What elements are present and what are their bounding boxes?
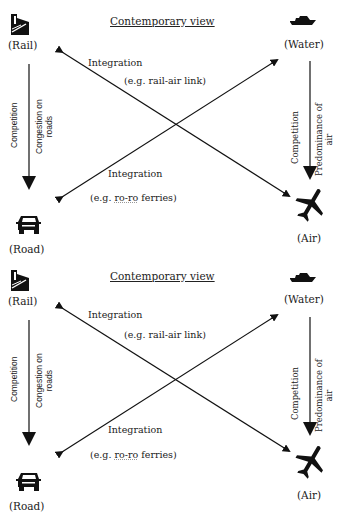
edge-label-rail-air: Integration (88, 58, 142, 68)
node-label-rail: (Rail) (8, 40, 37, 51)
edge-example-road-water: (e.g. ro-ro ferries) (90, 450, 177, 460)
diagram-panel-2: Contemporary view (Rail) (Water) (Road) … (0, 262, 349, 521)
edge-label-rail-road: Competition (10, 357, 20, 402)
edge-label-road-water: Integration (108, 169, 162, 179)
train-icon (9, 268, 31, 292)
diagram-panel-1: Contemporary view (Rail) (Water) (Road) … (0, 0, 349, 260)
edge-label-road-water: Integration (108, 425, 162, 435)
node-label-water: (Water) (284, 39, 324, 50)
edge-note-water-air: Predominance ofair (315, 359, 335, 432)
ship-icon (290, 271, 316, 283)
node-label-air: (Air) (297, 490, 321, 501)
edge-example-rail-air: (e.g. rail-air link) (124, 76, 206, 86)
node-label-rail: (Rail) (8, 296, 37, 307)
edge-label-water-air: Competition (291, 111, 301, 164)
panel-title: Contemporary view (110, 16, 215, 27)
train-icon (9, 12, 31, 36)
edge-example-rail-air: (e.g. rail-air link) (124, 330, 206, 340)
node-label-air: (Air) (297, 233, 321, 244)
edge-note-rail-road: Congestion onroads (35, 99, 55, 154)
panel-title: Contemporary view (110, 271, 215, 282)
ship-icon (290, 14, 316, 26)
car-icon (16, 215, 42, 235)
node-label-road: (Road) (9, 244, 44, 255)
node-label-road: (Road) (9, 501, 44, 512)
edge-label-rail-road: Competition (10, 103, 20, 148)
edge-note-rail-road: Congestion onroads (35, 353, 55, 408)
edge-label-rail-air: Integration (88, 310, 142, 320)
airplane-icon (294, 186, 328, 222)
edge-example-road-water: (e.g. ro-ro ferries) (90, 193, 177, 203)
airplane-icon (294, 443, 328, 479)
edge-label-water-air: Competition (291, 367, 301, 420)
node-label-water: (Water) (284, 294, 324, 305)
edge-note-water-air: Predominance ofair (315, 103, 335, 176)
car-icon (16, 472, 42, 492)
